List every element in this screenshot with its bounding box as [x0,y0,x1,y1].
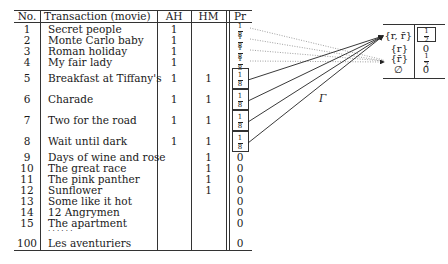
gamma-label: Γ [319,93,326,104]
side-set-rbar: {r̄} [380,53,408,64]
side-value-empty: 0 [415,64,437,75]
side-set-empty: ∅ [390,64,406,75]
side-frac: 12 [422,28,431,44]
side-set-r-rbar: {r, r̄} [380,30,412,41]
side-table-bottom-rule [383,78,445,79]
